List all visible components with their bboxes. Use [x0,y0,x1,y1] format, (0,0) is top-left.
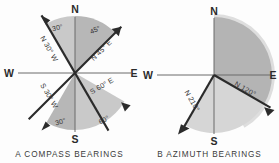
figure-azimuth-bearings: N S W E N 120° N 210° B AZIMUTH BEARINGS [140,0,279,163]
caption-azimuth-bearings: B AZIMUTH BEARINGS [140,150,279,159]
cardinal-west-b: W [143,69,153,81]
azimuth-bearings-diagram: N S W E N 120° N 210° [140,0,279,150]
figure-pair: N S W E 30° 45° 60° 30° N 30° W N 45° E … [0,0,279,163]
cardinal-south-a: S [71,133,78,145]
cardinal-south-b: S [210,135,217,147]
cardinal-north-b: N [210,5,218,17]
figure-compass-bearings: N S W E 30° 45° 60° 30° N 30° W N 45° E … [0,0,139,163]
caption-compass-bearings: A COMPASS BEARINGS [0,150,139,159]
cardinal-east-b: E [269,69,276,81]
cardinal-north-a: N [71,3,79,15]
arrowhead-n120 [264,107,274,116]
compass-bearings-diagram: N S W E 30° 45° 60° 30° N 30° W N 45° E … [0,0,139,150]
cardinal-east-a: E [130,67,137,79]
cardinal-west-a: W [4,67,14,79]
arrowhead-s60e [121,102,131,111]
